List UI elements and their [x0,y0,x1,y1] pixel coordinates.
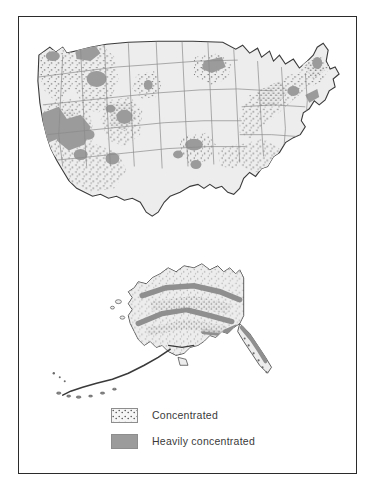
stipple-swatch-icon [111,408,138,423]
legend-label-concentrated: Concentrated [152,409,218,421]
legend-item-heavily-concentrated: Heavily concentrated [111,431,341,451]
alaska-panhandle [238,324,272,374]
map-figure-frame: Concentrated Heavily concentrated [18,16,357,474]
map-legend: Concentrated Heavily concentrated [111,405,341,457]
legend-label-heavily-concentrated: Heavily concentrated [152,435,255,447]
solid-swatch-icon [111,434,138,449]
map-contiguous-united-states [38,41,339,216]
legend-item-concentrated: Concentrated [111,405,341,425]
map-alaska-inset [53,264,272,398]
